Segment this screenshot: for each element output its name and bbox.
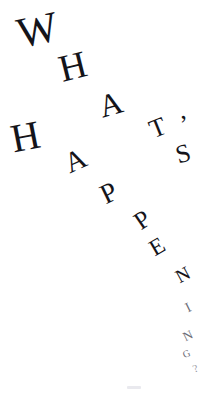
title-letter: G bbox=[181, 348, 192, 360]
title-letter: H bbox=[55, 44, 91, 88]
title-letter: A bbox=[95, 85, 126, 122]
title-letter: ’ bbox=[178, 112, 190, 139]
bottom-smudge bbox=[127, 386, 141, 389]
title-letter: ? bbox=[191, 362, 200, 374]
title-letter: E bbox=[145, 233, 169, 260]
title-letter: N bbox=[181, 328, 195, 344]
poster-canvas: WHAT’SHAPPENING? bbox=[0, 0, 217, 393]
title-letter: S bbox=[173, 140, 194, 169]
title-letter: T bbox=[146, 113, 170, 143]
title-letter: N bbox=[172, 263, 193, 286]
title-letter: P bbox=[96, 177, 122, 209]
title-letter: P bbox=[129, 205, 155, 234]
title-letter: I bbox=[183, 301, 193, 316]
title-letter: W bbox=[13, 4, 62, 55]
title-letter: H bbox=[7, 115, 43, 160]
title-letter: A bbox=[60, 143, 91, 178]
